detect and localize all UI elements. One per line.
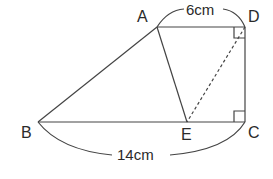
measure-arc-ad-right [223, 9, 245, 27]
right-angle-marker-c [234, 111, 245, 122]
segment-de-dashed [187, 27, 245, 122]
measure-label-bc: 14cm [117, 146, 154, 163]
point-label-d: D [248, 8, 260, 25]
measure-label-ad: 6cm [186, 1, 214, 18]
segment-ab [38, 27, 157, 122]
point-label-e: E [181, 126, 192, 143]
point-label-b: B [21, 124, 32, 141]
point-label-c: C [248, 124, 260, 141]
measure-arc-ad-left [157, 9, 184, 27]
geometry-diagram: A D B E C 6cm 14cm [0, 0, 273, 179]
measure-arc-bc-left [38, 122, 112, 155]
segment-ae [157, 27, 187, 122]
point-label-a: A [137, 8, 148, 25]
